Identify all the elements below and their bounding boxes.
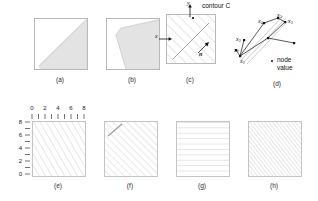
panel-e-ytick-3: 2 [14,158,22,164]
panel-d-node-label-x1: x1 [240,58,245,65]
panel-e-ytick-0: 8 [14,119,22,125]
panel-g-box [176,121,230,177]
panel-b-shading [107,19,159,69]
panel-d-node-label-x5: x5 [277,12,282,19]
panel-c-contour-marker [192,17,194,19]
panel-c-hatching [167,15,215,63]
panel-d-node-x5-sub: 5 [280,14,282,19]
panel-c-y-label: y [187,0,190,6]
panel-d-node-label-xstar: x* [234,47,239,54]
panel-e-left-ticks [25,120,31,176]
panel-d-node-x3-sub: 3 [291,20,293,25]
panel-c-contour-label: contour C [202,2,230,9]
panel-f-caption: (f) [115,182,145,189]
panel-e-xtick-3: 6 [67,105,75,111]
panel-d-node-x1-sub: 1 [243,60,245,65]
panel-e-hatching [33,122,85,176]
panel-a-box [34,18,88,70]
panel-e-xtick-1: 2 [41,105,49,111]
panel-d-node-label-x3: x3 [288,18,293,25]
panel-d-node-label-x2: x2 [236,36,241,43]
panel-c-x-axis [158,35,172,43]
panel-d-legend-marker [271,60,273,62]
panel-c-y-axis [186,4,194,18]
panel-e-caption: (e) [43,182,73,189]
panel-e-ytick-4: 0 [14,171,22,177]
panel-d-caption: (d) [262,80,292,87]
panel-e-box [32,121,86,177]
panel-e-xtick-0: 0 [28,105,36,111]
panel-c-box [166,14,216,64]
panel-g-lines [177,122,229,176]
panel-h-box [248,121,302,177]
panel-g-caption: (g) [187,182,217,189]
panel-a-shading [35,19,87,69]
panel-a-caption: (a) [45,76,75,83]
panel-f-box [104,121,158,177]
panel-f-hatching [105,122,157,176]
figure-container: (a) (b) y x n [0,0,318,201]
panel-c-normal-label: n [199,51,202,57]
panel-d-node-x2-sub: 2 [239,38,241,43]
panel-c-x-label: x [155,33,158,39]
panel-e-top-ticks [30,114,86,120]
panel-d-node-label-x4: x4 [258,18,263,25]
panel-d-node-xstar-sub: * [237,49,239,54]
panel-b-caption: (b) [117,76,147,83]
panel-e-ytick-1: 6 [14,132,22,138]
panel-e-xtick-4: 8 [80,105,88,111]
panel-e-ytick-2: 4 [14,145,22,151]
panel-c-caption: (c) [175,76,205,83]
panel-b-box [106,18,160,70]
panel-e-xtick-2: 4 [54,105,62,111]
panel-d-legend-text: node value [277,56,293,71]
panel-d-node-x4-sub: 4 [261,20,263,25]
panel-h-caption: (h) [259,182,289,189]
panel-h-hatching [249,122,301,176]
